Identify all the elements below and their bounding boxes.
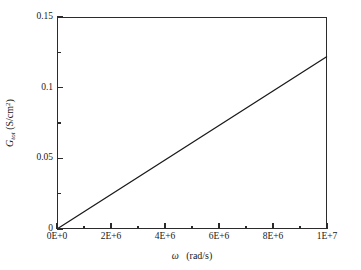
x-tick-label: 2E+6 [85,231,137,242]
y-tick-major [57,158,63,159]
x-tick-minor [137,226,138,230]
plot-area [57,17,327,229]
y-tick-major [57,228,63,229]
y-axis-units-exponent: 2 [4,102,12,106]
y-axis-units-close: ) [4,99,15,102]
x-tick-major [218,223,219,229]
x-tick-label: 6E+6 [193,231,245,242]
x-tick-minor [191,226,192,230]
y-axis-symbol: G [4,140,15,147]
x-tick-major [272,223,273,229]
y-axis-units-open: (S/cm [4,106,15,130]
x-tick-label: 4E+6 [139,231,191,242]
x-tick-minor [83,226,84,230]
y-tick-minor [57,193,61,194]
y-tick-minor [57,52,61,53]
x-tick-major [110,223,111,229]
x-axis-symbol: ω [172,250,179,261]
x-tick-minor [299,226,300,230]
x-tick-major [326,223,327,229]
y-axis-label: Gtot (S/cm2) [2,99,20,147]
y-axis-label-wrapper: Gtot (S/cm2) [0,17,22,229]
x-axis-units: (rad/s) [186,250,212,261]
chart-figure: 0E+02E+64E+66E+68E+61E+7 00.050.10.15 ω … [0,0,361,270]
x-tick-label: 8E+6 [247,231,299,242]
x-tick-minor [245,226,246,230]
y-tick-major [57,16,63,17]
y-tick-minor [57,122,61,123]
y-tick-major [57,87,63,88]
y-axis-subscript: tot [9,132,17,139]
x-tick-major [164,223,165,229]
x-axis-label: ω (rad/s) [57,249,327,262]
x-tick-label: 1E+7 [301,231,353,242]
